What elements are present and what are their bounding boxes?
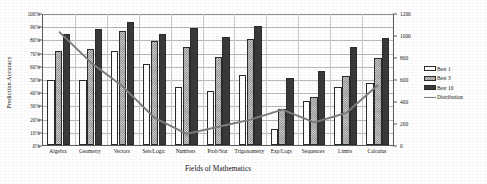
y-axis-left-tick-label: 30% [18, 103, 40, 109]
legend-label: Best 1 [437, 66, 451, 72]
x-axis-tick-label: Vectors [114, 148, 130, 154]
legend-swatch [424, 95, 436, 100]
y-axis-title-left: Prediction Accuracy [1, 18, 15, 146]
distribution-line-layer [43, 14, 394, 146]
y-axis-left-tick-mark [38, 106, 42, 107]
y-axis-left-tick-label: 10% [18, 130, 40, 136]
y-axis-left-tick-mark [38, 14, 42, 15]
y-axis-right-tick-label: 0 [400, 143, 424, 149]
y-axis-left-tick-mark [38, 80, 42, 81]
x-axis-tick-label: Sequences [302, 148, 325, 154]
y-axis-right-ticks: 020040060080010001200 [396, 0, 422, 184]
x-axis-tick-label: Geometry [79, 148, 101, 154]
y-axis-left-ticks: 0%10%20%30%40%50%60%70%80%90%100% [14, 0, 40, 184]
legend-item: Best 10 [424, 83, 486, 93]
y-axis-right-tick-mark [393, 14, 397, 15]
x-axis-tick-label: Exp/Logs [271, 148, 292, 154]
x-axis-tick-label: Prob/Stat [207, 148, 227, 154]
y-axis-right-tick-label: 600 [400, 77, 424, 83]
x-axis-tick-label: Limits [338, 148, 352, 154]
y-axis-right-tick-mark [393, 80, 397, 81]
y-axis-left-tick-mark [38, 146, 42, 147]
y-axis-left-tick-mark [38, 119, 42, 120]
y-axis-left-tick-label: 70% [18, 51, 40, 57]
legend-label: Distribution [437, 94, 463, 100]
legend-item: Best 3 [424, 74, 486, 84]
y-axis-right-tick-label: 1200 [400, 11, 424, 17]
y-axis-right-tick-label: 200 [400, 121, 424, 127]
y-axis-right-tick-label: 400 [400, 99, 424, 105]
y-axis-left-tick-mark [38, 93, 42, 94]
y-axis-left-tick-label: 20% [18, 117, 40, 123]
legend-item: Distribution [424, 93, 486, 103]
chart-legend: Best 1Best 3Best 10Distribution [424, 64, 486, 102]
y-axis-left-tick-mark [38, 66, 42, 67]
distribution-line [59, 32, 378, 134]
legend-item: Best 1 [424, 64, 486, 74]
x-axis-tick-label: Numbers [176, 148, 196, 154]
y-axis-left-tick-label: 40% [18, 90, 40, 96]
y-axis-left-tick-mark [38, 53, 42, 54]
y-axis-left-tick-mark [38, 40, 42, 41]
legend-swatch [424, 76, 436, 81]
y-axis-right-tick-mark [393, 36, 397, 37]
y-axis-left-tick-label: 80% [18, 37, 40, 43]
x-axis-tick-label: Sets/Logic [142, 148, 165, 154]
y-axis-left-tick-label: 0% [18, 143, 40, 149]
x-axis-title: Fields of Mathematics [43, 164, 393, 173]
legend-swatch [424, 85, 436, 90]
y-axis-left-tick-label: 100% [18, 11, 40, 17]
y-axis-left-tick-label: 60% [18, 64, 40, 70]
y-axis-left-tick-label: 90% [18, 24, 40, 30]
y-axis-left-tick-mark [38, 27, 42, 28]
x-axis-tick-label: Calculus [368, 148, 387, 154]
grouped-bar-chart: Prediction Accuracy 0%10%20%30%40%50%60%… [0, 0, 487, 184]
y-axis-right-tick-mark [393, 146, 397, 147]
y-axis-right-tick-mark [393, 102, 397, 103]
y-axis-right-tick-mark [393, 58, 397, 59]
y-axis-left-tick-label: 50% [18, 77, 40, 83]
legend-label: Best 10 [437, 85, 453, 91]
y-axis-right-tick-mark [393, 124, 397, 125]
y-axis-title-left-text: Prediction Accuracy [5, 56, 12, 108]
legend-swatch [424, 66, 436, 71]
x-axis-tick-label: Algebra [49, 148, 66, 154]
y-axis-right-tick-label: 1000 [400, 33, 424, 39]
legend-label: Best 3 [437, 75, 451, 81]
y-axis-right-tick-label: 800 [400, 55, 424, 61]
plot-area [42, 14, 393, 146]
y-axis-left-tick-mark [38, 132, 42, 133]
x-axis-tick-label: Trigonometry [235, 148, 265, 154]
